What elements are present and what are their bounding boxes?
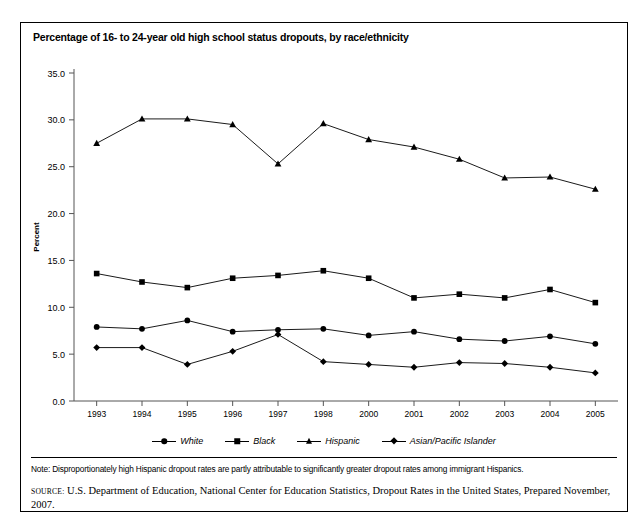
- x-axis-tick-label: 1996: [223, 409, 242, 419]
- series-data-point: [547, 174, 554, 180]
- x-axis-tick-label: 2003: [495, 409, 514, 419]
- x-axis-tick-label: 1993: [87, 409, 106, 419]
- x-axis-tick-label: 2005: [586, 409, 605, 419]
- legend-item-label: Black: [253, 436, 275, 446]
- series-data-point: [411, 364, 418, 371]
- legend-item: White: [152, 436, 203, 446]
- series-data-point: [592, 341, 598, 347]
- series-data-point: [93, 140, 100, 146]
- legend-item-label: Asian/Pacific Islander: [410, 436, 496, 446]
- series-data-point: [501, 360, 508, 367]
- x-axis-tick-label: 2004: [541, 409, 560, 419]
- triangle-marker-icon: [297, 436, 321, 446]
- chart-series: [94, 318, 598, 347]
- chart-series-group: [93, 115, 598, 376]
- series-data-point: [411, 295, 417, 301]
- y-axis-tick-label: 5.0: [52, 350, 65, 360]
- circle-marker-icon: [152, 436, 176, 446]
- series-data-point: [456, 359, 463, 366]
- series-data-point: [365, 361, 372, 368]
- y-axis-title: Percent: [32, 222, 41, 252]
- series-data-point: [94, 324, 100, 330]
- series-data-point: [457, 291, 463, 297]
- chart-series: [93, 331, 598, 376]
- y-axis-tick-label: 15.0: [47, 256, 65, 266]
- legend-item: Asian/Pacific Islander: [382, 436, 496, 446]
- y-axis-tick-label: 25.0: [47, 162, 65, 172]
- legend-item: Hispanic: [297, 436, 360, 446]
- series-data-point: [502, 295, 508, 301]
- diamond-marker-icon: [382, 436, 406, 446]
- y-axis: 0.05.010.015.020.025.030.035.0: [47, 69, 74, 407]
- x-axis: 1993199419951996199719982000200120022003…: [74, 401, 618, 419]
- series-data-point: [184, 361, 191, 368]
- chart-legend: WhiteBlackHispanicAsian/Pacific Islander: [21, 431, 627, 451]
- x-axis-tick-label: 2000: [359, 409, 378, 419]
- x-axis-tick-label: 1995: [178, 409, 197, 419]
- y-axis-tick-label: 10.0: [47, 303, 65, 313]
- x-axis-tick-label: 1998: [314, 409, 333, 419]
- y-axis-tick-label: 20.0: [47, 209, 65, 219]
- legend-item-label: White: [180, 436, 203, 446]
- series-line: [97, 320, 596, 343]
- x-axis-tick-label: 2002: [450, 409, 469, 419]
- footer-divider: [31, 457, 617, 458]
- legend-item-label: Hispanic: [325, 436, 360, 446]
- series-line: [97, 119, 596, 189]
- series-data-point: [139, 326, 145, 332]
- series-data-point: [275, 331, 282, 338]
- series-data-point: [320, 358, 327, 365]
- series-data-point: [320, 326, 326, 332]
- x-axis-tick-label: 1997: [269, 409, 288, 419]
- series-data-point: [366, 333, 372, 339]
- x-axis-tick-label: 2001: [405, 409, 424, 419]
- series-data-point: [411, 329, 417, 335]
- series-line: [97, 271, 596, 303]
- series-data-point: [94, 271, 100, 277]
- y-axis-tick-label: 0.0: [52, 397, 65, 407]
- series-data-point: [321, 268, 327, 274]
- legend-item: Black: [225, 436, 275, 446]
- series-data-point: [366, 275, 372, 281]
- series-data-point: [592, 369, 599, 376]
- square-marker-icon: [225, 436, 249, 446]
- y-axis-tick-label: 30.0: [47, 115, 65, 125]
- series-data-point: [139, 344, 146, 351]
- line-chart: 0.05.010.015.020.025.030.035.0 199319941…: [21, 51, 627, 451]
- y-axis-tick-label: 35.0: [47, 69, 65, 79]
- chart-plot-area: 0.05.010.015.020.025.030.035.0 199319941…: [21, 51, 627, 451]
- figure-frame: Percentage of 16- to 24-year old high sc…: [20, 22, 628, 512]
- series-data-point: [502, 338, 508, 344]
- figure-source: SOURCE: U.S. Department of Education, Na…: [31, 484, 621, 511]
- chart-series: [94, 268, 598, 305]
- series-data-point: [275, 273, 281, 279]
- series-data-point: [185, 285, 191, 291]
- series-data-point: [547, 287, 553, 293]
- series-data-point: [230, 329, 236, 335]
- series-data-point: [139, 279, 145, 285]
- series-data-point: [320, 120, 327, 126]
- series-data-point: [229, 348, 236, 355]
- series-data-point: [93, 344, 100, 351]
- series-data-point: [230, 275, 236, 281]
- series-data-point: [184, 318, 190, 324]
- series-data-point: [547, 333, 553, 339]
- series-line: [97, 334, 596, 372]
- series-data-point: [456, 336, 462, 342]
- series-data-point: [593, 300, 599, 306]
- series-data-point: [547, 364, 554, 371]
- chart-series: [93, 115, 598, 191]
- y-axis-title-label: Percent: [32, 222, 41, 252]
- source-text: U.S. Department of Education, National C…: [31, 485, 610, 510]
- source-label: SOURCE:: [31, 487, 64, 496]
- figure-title: Percentage of 16- to 24-year old high sc…: [33, 31, 409, 43]
- x-axis-tick-label: 1994: [133, 409, 152, 419]
- figure-note: Note: Disproportionately high Hispanic d…: [31, 464, 619, 475]
